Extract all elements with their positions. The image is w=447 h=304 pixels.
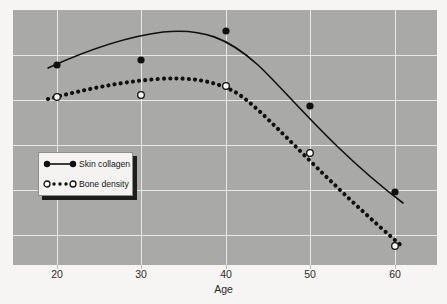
x-tick-label-60: 60 [389,268,401,280]
x-tick-label-40: 40 [220,268,232,280]
legend-symbol-svg-bone-density [43,177,77,191]
legend-label-bone-density: Bone density [79,179,129,189]
data-point-bone-density-50 [307,150,314,157]
data-point-bone-density-60 [392,243,399,250]
plot-area [13,10,437,265]
data-point-skin-collagen-60 [391,188,398,195]
data-point-bone-density-40 [223,83,230,90]
legend-entry-bone-density: Bone density [38,173,133,195]
series-canvas [13,10,437,265]
chart-figure: Skin collagen Bone density 20 30 40 50 6… [0,0,447,304]
legend-entry-skin-collagen: Skin collagen [38,153,133,175]
data-point-skin-collagen-20 [53,61,60,68]
data-point-bone-density-20 [54,94,61,101]
data-point-skin-collagen-50 [306,102,313,109]
dotted-line-open-circles-icon [43,177,77,191]
legend-symbol-svg-skin-collagen [43,157,77,171]
x-tick-label-20: 20 [51,268,63,280]
data-point-skin-collagen-40 [222,27,229,34]
x-tick-label-50: 50 [304,268,316,280]
x-axis-title: Age [0,283,447,295]
x-tick-label-30: 30 [135,268,147,280]
legend-label-skin-collagen: Skin collagen [79,159,130,169]
chart-legend: Skin collagen Bone density [38,152,133,196]
solid-line-filled-circles-icon [43,157,77,171]
data-point-bone-density-30 [138,92,145,99]
data-point-skin-collagen-30 [137,56,144,63]
